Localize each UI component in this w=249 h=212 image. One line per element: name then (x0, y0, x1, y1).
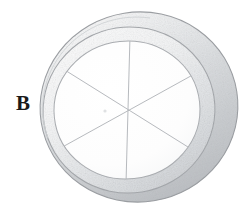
ring-drawing-svg (0, 0, 249, 212)
figure-canvas: B (0, 0, 249, 212)
graphite-smudge (103, 109, 106, 112)
part-label-b: B (16, 92, 30, 114)
